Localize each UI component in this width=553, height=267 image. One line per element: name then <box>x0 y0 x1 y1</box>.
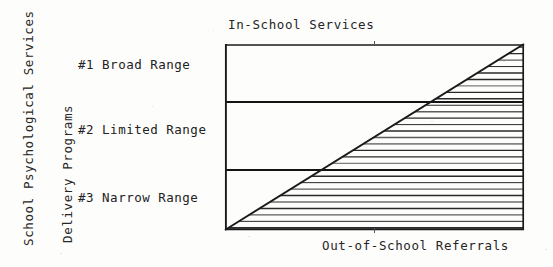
scan-speckle <box>60 253 62 254</box>
scan-speckle <box>152 106 153 107</box>
range-label-limited: #2 Limited Range <box>78 122 206 137</box>
figure-canvas: School Psychological Services Delivery P… <box>0 0 553 267</box>
plot-svg <box>225 44 524 230</box>
x-axis-title: Out-of-School Referrals <box>322 238 509 253</box>
scan-speckle <box>545 249 547 250</box>
scan-speckle <box>213 30 214 31</box>
axis-caption-school-psychological-services: School Psychological Services <box>21 10 36 246</box>
range-label-narrow: #3 Narrow Range <box>78 190 198 205</box>
chart-title: In-School Services <box>228 17 374 32</box>
scan-speckle <box>248 236 250 237</box>
plot-area <box>225 44 524 230</box>
range-label-broad: #1 Broad Range <box>78 57 190 72</box>
axis-caption-delivery-programs: Delivery Programs <box>60 105 75 243</box>
